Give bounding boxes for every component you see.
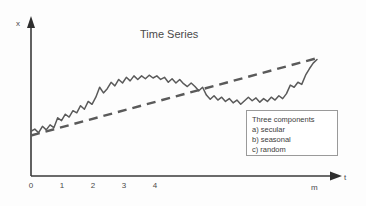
x-axis-arrow-icon bbox=[330, 172, 342, 181]
x-tick-3: 3 bbox=[122, 181, 126, 190]
x-tick-4: 4 bbox=[153, 181, 157, 190]
legend-title: Three components bbox=[252, 115, 337, 125]
y-axis-arrow-icon bbox=[27, 16, 35, 28]
legend-item-random: c) random bbox=[252, 145, 337, 155]
legend-item-secular: a) secular bbox=[252, 125, 337, 135]
x-tick-0: 0 bbox=[29, 181, 33, 190]
chart-title: Time Series bbox=[140, 28, 198, 40]
y-axis-label: x bbox=[16, 20, 20, 28]
legend-item-seasonal: b) seasonal bbox=[252, 135, 337, 145]
x-axis-label: t bbox=[344, 174, 346, 182]
x-tick-1: 1 bbox=[60, 181, 64, 190]
legend-box: Three components a) secular b) seasonal … bbox=[246, 110, 338, 156]
x-axis-end-marker-label: m bbox=[311, 184, 318, 192]
chart-canvas: Time Series x t m 01234 Three components… bbox=[0, 0, 366, 206]
x-tick-2: 2 bbox=[91, 181, 95, 190]
